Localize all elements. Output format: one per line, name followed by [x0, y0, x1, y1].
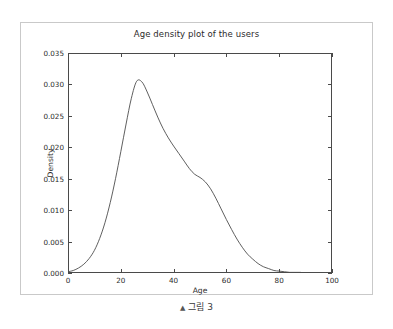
y-tick-mark: [68, 147, 72, 148]
y-tick-mark: [68, 210, 72, 211]
y-tick-mark: [328, 273, 332, 274]
x-tick-mark: [121, 269, 122, 273]
x-tick-label: 40: [169, 276, 178, 285]
y-tick-label: 0.030: [43, 80, 64, 89]
y-tick-label: 0.025: [43, 111, 64, 120]
x-tick-mark: [279, 53, 280, 57]
chart-title: Age density plot of the users: [21, 29, 372, 39]
y-tick-mark: [68, 116, 72, 117]
x-tick-mark: [68, 53, 69, 57]
y-tick-label: 0.005: [43, 237, 64, 246]
y-tick-mark: [328, 179, 332, 180]
x-tick-mark: [226, 53, 227, 57]
plot-area: 0.0000.0050.0100.0150.0200.0250.0300.035…: [68, 53, 332, 273]
x-tick-mark: [174, 53, 175, 57]
y-tick-mark: [328, 147, 332, 148]
y-tick-mark: [328, 84, 332, 85]
figure-caption: ▲ 그림 3: [0, 300, 393, 313]
x-tick-label: 80: [275, 276, 284, 285]
x-tick-label: 100: [325, 276, 339, 285]
x-tick-mark: [226, 269, 227, 273]
y-tick-mark: [328, 116, 332, 117]
x-tick-label: 0: [66, 276, 71, 285]
y-axis-label: Density: [46, 149, 55, 178]
y-tick-label: 0.010: [43, 206, 64, 215]
x-tick-mark: [332, 53, 333, 57]
y-tick-mark: [68, 273, 72, 274]
x-tick-label: 60: [222, 276, 231, 285]
caption-marker-icon: ▲: [180, 304, 185, 312]
y-tick-label: 0.035: [43, 49, 64, 58]
x-tick-label: 20: [116, 276, 125, 285]
y-tick-label: 0.000: [43, 269, 64, 278]
x-tick-mark: [174, 269, 175, 273]
y-tick-mark: [68, 242, 72, 243]
x-tick-mark: [279, 269, 280, 273]
density-curve: [68, 53, 332, 273]
y-tick-mark: [68, 84, 72, 85]
y-tick-mark: [328, 242, 332, 243]
y-tick-mark: [328, 210, 332, 211]
y-tick-mark: [68, 179, 72, 180]
x-tick-mark: [68, 269, 69, 273]
caption-text: 그림 3: [188, 302, 213, 312]
figure-card: Age density plot of the users 0.0000.005…: [20, 22, 373, 295]
x-tick-mark: [332, 269, 333, 273]
x-tick-mark: [121, 53, 122, 57]
x-axis-label: Age: [193, 286, 208, 295]
